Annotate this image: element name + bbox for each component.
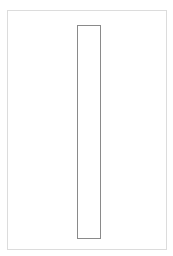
vertical-rectangle [77, 25, 101, 239]
